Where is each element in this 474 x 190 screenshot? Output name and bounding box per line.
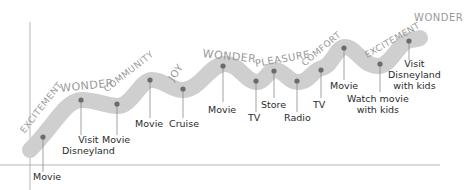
event-label: Movie	[330, 80, 358, 91]
event-label-text: Visit Disneyland with kids	[388, 58, 441, 91]
event-label: TV	[313, 99, 325, 110]
event-label: Movie	[208, 104, 236, 115]
event-label: Watch movie with kids	[347, 93, 409, 115]
event-label: Movie	[33, 171, 61, 182]
event-label-text: Watch movie with kids	[347, 93, 409, 115]
event-label: Radio	[284, 112, 311, 123]
event-label: Cruise	[169, 118, 199, 129]
event-label: TV	[248, 112, 260, 123]
event-label: Store	[261, 99, 286, 110]
emotion-wonder: WONDER	[414, 12, 463, 23]
event-label: Movie	[135, 118, 163, 129]
event-label: Visit Disneyland with kids	[388, 58, 441, 91]
event-label: Movie	[102, 134, 130, 145]
